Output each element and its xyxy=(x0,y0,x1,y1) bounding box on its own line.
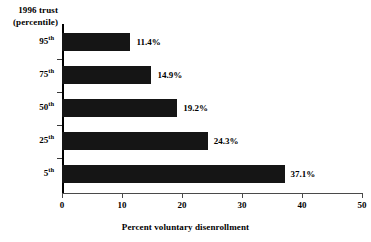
x-axis-tick xyxy=(362,193,363,198)
bar-row: 37.1% xyxy=(62,165,362,183)
bar-chart: 1996 trust (percentile) 11.4%14.9%19.2%2… xyxy=(0,0,371,242)
bar-row: 11.4% xyxy=(62,33,362,51)
y-axis-tick-label: 25th xyxy=(2,135,54,145)
bar-row: 24.3% xyxy=(62,132,362,150)
x-axis-tick-label: 0 xyxy=(47,200,77,210)
y-axis-minor-tick xyxy=(57,125,62,126)
y-axis-title-line-1: 1996 trust xyxy=(0,4,58,16)
bar xyxy=(62,132,208,150)
x-axis-tick-label: 50 xyxy=(347,200,371,210)
x-axis-tick-label: 40 xyxy=(287,200,317,210)
x-axis-tick xyxy=(122,193,123,198)
bar-row: 19.2% xyxy=(62,99,362,117)
x-axis-tick-label: 10 xyxy=(107,200,137,210)
bar xyxy=(62,66,151,84)
x-axis-tick xyxy=(242,193,243,198)
bar-value-label: 11.4% xyxy=(130,37,160,47)
y-axis-tick-label: 5th xyxy=(2,168,54,178)
y-axis-title-line-2: (percentile) xyxy=(0,16,58,28)
bar-value-label: 37.1% xyxy=(285,169,316,179)
x-axis-tick xyxy=(182,193,183,198)
bar xyxy=(62,165,285,183)
x-axis-tick-label: 20 xyxy=(167,200,197,210)
bar xyxy=(62,33,130,51)
x-axis-tick xyxy=(62,193,63,198)
y-axis-minor-tick xyxy=(57,158,62,159)
bar xyxy=(62,99,177,117)
bar-value-label: 19.2% xyxy=(177,103,208,113)
x-axis-tick xyxy=(302,193,303,198)
y-axis-minor-tick xyxy=(57,59,62,60)
y-axis-tick-label: 75th xyxy=(2,69,54,79)
y-axis-tick-label: 95th xyxy=(2,36,54,46)
y-axis-title: 1996 trust (percentile) xyxy=(0,4,58,28)
x-axis-title: Percent voluntary disenrollment xyxy=(0,222,371,232)
x-axis-tick-label: 30 xyxy=(227,200,257,210)
plot-area: 11.4%14.9%19.2%24.3%37.1% xyxy=(62,24,362,194)
bar-row: 14.9% xyxy=(62,66,362,84)
bar-value-label: 24.3% xyxy=(208,136,239,146)
y-axis-tick-label: 50th xyxy=(2,102,54,112)
y-axis-minor-tick xyxy=(57,92,62,93)
bar-value-label: 14.9% xyxy=(151,70,182,80)
